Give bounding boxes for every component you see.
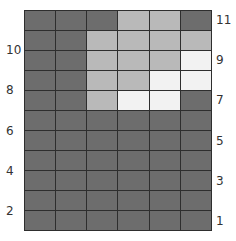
grid-cell (118, 191, 148, 210)
grid-cell (150, 31, 180, 50)
grid-cell (25, 211, 55, 230)
grid-cell (56, 151, 86, 170)
right-row-label: 1 (216, 215, 224, 227)
grid-cell (150, 71, 180, 90)
grid-cell (56, 111, 86, 130)
grid-cell (118, 131, 148, 150)
grid-cell (118, 91, 148, 110)
grid-cell (150, 171, 180, 190)
grid-cell (118, 51, 148, 70)
right-row-label: 7 (216, 94, 224, 106)
grid-cell (181, 31, 211, 50)
grid-cell (118, 151, 148, 170)
grid-cell (150, 111, 180, 130)
grid-cell (150, 51, 180, 70)
grid-cell (87, 51, 117, 70)
grid-cell (25, 131, 55, 150)
grid-cell (181, 111, 211, 130)
grid-cell (56, 11, 86, 30)
grid-cell (118, 71, 148, 90)
grid-cell (87, 211, 117, 230)
right-row-label: 3 (216, 175, 224, 187)
grid-cell (150, 91, 180, 110)
grid-cell (87, 171, 117, 190)
grid-cell (181, 71, 211, 90)
grid-cell (56, 71, 86, 90)
grid-cell (150, 131, 180, 150)
grid-cell (56, 131, 86, 150)
left-row-label: 10 (6, 44, 22, 56)
grid-cell (118, 31, 148, 50)
grid-cell (181, 211, 211, 230)
left-row-label: 2 (6, 205, 22, 217)
right-row-label: 9 (216, 54, 224, 66)
grid-cell (87, 191, 117, 210)
grid-cell (181, 91, 211, 110)
grid-cell (25, 91, 55, 110)
grid-cell (25, 151, 55, 170)
grid-cell (56, 211, 86, 230)
grid-cell (87, 91, 117, 110)
right-row-label: 5 (216, 135, 224, 147)
grid-cell (181, 171, 211, 190)
grid-cell (87, 151, 117, 170)
grid-cell (181, 11, 211, 30)
left-row-label: 6 (6, 125, 22, 137)
grid-cell (181, 191, 211, 210)
grid-cell (150, 191, 180, 210)
right-row-label: 11 (216, 14, 231, 26)
grid-cell (150, 11, 180, 30)
grid-cell (56, 171, 86, 190)
left-row-label: 4 (6, 165, 22, 177)
grid-cell (56, 91, 86, 110)
grid-cell (25, 11, 55, 30)
grid-cell (25, 111, 55, 130)
grid-cell (118, 11, 148, 30)
grid-cell (118, 111, 148, 130)
grid-cell (25, 171, 55, 190)
grid-cell (25, 191, 55, 210)
grid-cell (56, 31, 86, 50)
grid-cell (87, 11, 117, 30)
grid-cell (87, 131, 117, 150)
grid-cell (181, 131, 211, 150)
left-row-label: 8 (6, 84, 22, 96)
grid-cell (87, 31, 117, 50)
cell-grid (24, 10, 212, 231)
grid-cell (56, 51, 86, 70)
grid-cell (25, 51, 55, 70)
grid-cell (181, 151, 211, 170)
grid-cell (87, 111, 117, 130)
grid-cell (181, 51, 211, 70)
grid-cell (56, 191, 86, 210)
grid-cell (118, 171, 148, 190)
grid-cell (118, 211, 148, 230)
grid-cell (150, 211, 180, 230)
grid-cell (25, 31, 55, 50)
grid-cell (150, 151, 180, 170)
grid-cell (87, 71, 117, 90)
grid-cell (25, 71, 55, 90)
